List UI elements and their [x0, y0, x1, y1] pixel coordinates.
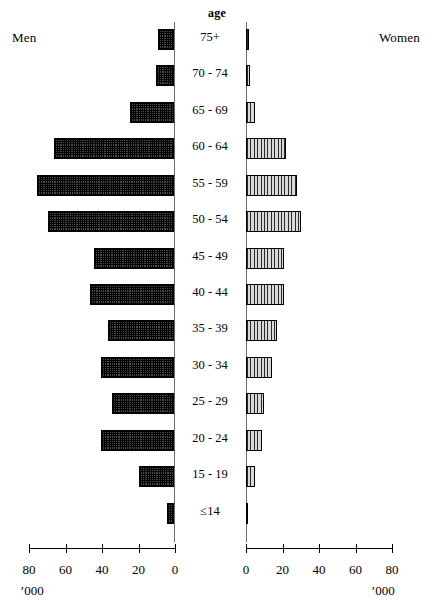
bar-women	[246, 65, 250, 86]
axis-tick-label: 40	[299, 562, 339, 578]
age-group-row: 40 - 44	[0, 277, 434, 313]
axis-tick	[319, 544, 320, 553]
bar-women	[246, 138, 286, 159]
bar-men	[101, 430, 174, 451]
age-group-row: 65 - 69	[0, 95, 434, 131]
axis-tick-label: 0	[226, 562, 266, 578]
axis-tick	[356, 544, 357, 553]
age-group-label: 65 - 69	[174, 103, 246, 118]
age-group-label: 40 - 44	[174, 285, 246, 300]
bar-women	[246, 430, 262, 451]
axis-tick	[102, 544, 103, 553]
age-group-row: 45 - 49	[0, 241, 434, 277]
bar-women	[246, 175, 297, 196]
bar-women	[246, 102, 255, 123]
axis-tick-label: 80	[372, 562, 412, 578]
men-unit-label: ’000	[20, 583, 44, 599]
bar-men	[94, 248, 174, 269]
axis-tick-label: 60	[336, 562, 376, 578]
bar-men	[130, 102, 174, 123]
bar-men	[101, 357, 174, 378]
axis-tick-label: 20	[263, 562, 303, 578]
age-group-row: 25 - 29	[0, 386, 434, 422]
bar-men	[156, 65, 174, 86]
bar-women	[246, 357, 272, 378]
age-group-label: 60 - 64	[174, 139, 246, 154]
bar-men	[90, 284, 174, 305]
bar-men	[37, 175, 174, 196]
age-group-row: 55 - 59	[0, 168, 434, 204]
axis-tick-label: 40	[82, 562, 122, 578]
age-group-label: 25 - 29	[174, 394, 246, 409]
plot-area: 75+70 - 7465 - 6960 - 6455 - 5950 - 5445…	[0, 22, 434, 542]
age-column-heading: age	[0, 6, 434, 21]
bar-men	[167, 503, 174, 524]
axis-tick-label: 20	[119, 562, 159, 578]
age-group-row: 15 - 19	[0, 459, 434, 495]
age-group-label: 50 - 54	[174, 212, 246, 227]
axis-tick	[139, 544, 140, 553]
age-group-row: 35 - 39	[0, 313, 434, 349]
axis-tick-label: 80	[9, 562, 49, 578]
age-group-label: 45 - 49	[174, 249, 246, 264]
bar-women	[246, 284, 284, 305]
bar-women	[246, 320, 277, 341]
age-group-row: 70 - 74	[0, 58, 434, 94]
axis-tick	[175, 544, 176, 553]
bar-women	[246, 466, 255, 487]
bar-women	[246, 29, 249, 50]
age-group-row: 20 - 24	[0, 423, 434, 459]
age-group-row: ≤14	[0, 496, 434, 532]
axis-tick	[29, 544, 30, 553]
age-group-label: 55 - 59	[174, 176, 246, 191]
bar-men	[112, 393, 174, 414]
population-pyramid-chart: Men Women age 75+70 - 7465 - 6960 - 6455…	[0, 0, 434, 616]
axis-tick-label: 60	[46, 562, 86, 578]
axis-tick-label: 0	[155, 562, 195, 578]
age-group-row: 30 - 34	[0, 350, 434, 386]
bar-women	[246, 248, 284, 269]
axis-tick	[283, 544, 284, 553]
axis-tick	[246, 544, 247, 553]
bar-men	[48, 211, 174, 232]
bar-men	[108, 320, 174, 341]
age-group-label: ≤14	[174, 504, 246, 519]
age-group-label: 70 - 74	[174, 66, 246, 81]
women-unit-label: ’000	[371, 583, 395, 599]
bar-women	[246, 211, 301, 232]
age-group-label: 15 - 19	[174, 467, 246, 482]
axis-tick	[392, 544, 393, 553]
age-group-label: 75+	[174, 30, 246, 45]
men-axis-line	[29, 548, 175, 549]
axis-tick	[66, 544, 67, 553]
age-group-label: 35 - 39	[174, 321, 246, 336]
bar-women	[246, 393, 264, 414]
women-axis-line	[246, 548, 392, 549]
age-group-row: 60 - 64	[0, 131, 434, 167]
age-group-label: 30 - 34	[174, 358, 246, 373]
age-group-label: 20 - 24	[174, 431, 246, 446]
age-group-row: 50 - 54	[0, 204, 434, 240]
bar-men	[158, 29, 174, 50]
age-group-row: 75+	[0, 22, 434, 58]
bar-men	[54, 138, 174, 159]
bar-men	[139, 466, 174, 487]
bar-women	[246, 503, 248, 524]
